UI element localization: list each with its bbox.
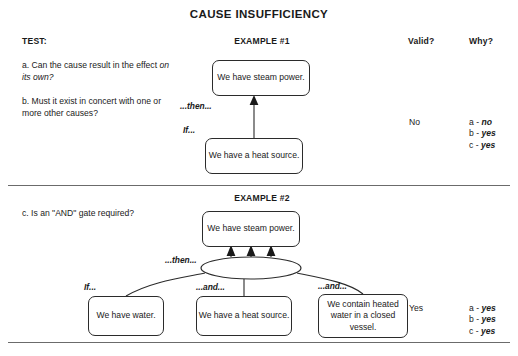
answer-row: b - yes xyxy=(469,128,496,139)
test-question-a: a. Can the cause result in the effect on… xyxy=(22,60,172,83)
node-example2-cause-2: We have a heat source. xyxy=(196,296,292,336)
node-example2-effect: We have steam power. xyxy=(202,211,300,247)
answer-row: c - yes xyxy=(469,140,496,151)
node-example1-effect: We have steam power. xyxy=(212,60,310,96)
test-question-b: b. Must it exist in concert with one or … xyxy=(22,96,172,119)
test-question-c: c. Is an "AND" gate required? xyxy=(22,208,172,220)
connector-label-if-example1: If... xyxy=(183,125,195,135)
test-question-a-text: a. Can the cause result in the effect xyxy=(22,60,159,70)
column-header-test: TEST: xyxy=(22,36,47,46)
column-header-example1: EXAMPLE #1 xyxy=(213,36,311,46)
column-header-example2: EXAMPLE #2 xyxy=(213,193,311,203)
answer-row: c - yes xyxy=(469,326,496,337)
answer-row: b - yes xyxy=(469,314,496,325)
answers-example1: a - no b - yes c - yes xyxy=(469,117,496,151)
connector-label-if-example2: If... xyxy=(84,282,96,292)
section-divider-middle xyxy=(8,185,510,186)
page-title: CAUSE INSUFFICIENCY xyxy=(0,8,518,20)
verdict-example1: No xyxy=(409,117,420,127)
answer-row: a - no xyxy=(469,117,496,128)
arrowhead-example1 xyxy=(250,95,259,105)
column-header-valid: Valid? xyxy=(408,36,435,46)
node-example2-cause-1: We have water. xyxy=(88,296,164,336)
verdict-example2: Yes xyxy=(409,303,423,313)
diagram-page: CAUSE INSUFFICIENCY TEST: EXAMPLE #1 Val… xyxy=(0,0,518,356)
connector-label-then-example1: ...then... xyxy=(180,101,212,111)
connector-label-and-1: ...and... xyxy=(196,282,225,292)
column-header-why: Why? xyxy=(469,36,493,46)
and-gate-ellipse xyxy=(201,257,301,279)
node-example1-cause: We have a heat source. xyxy=(205,138,303,174)
answer-row: a - yes xyxy=(469,303,496,314)
connector-label-then-example2: ...then... xyxy=(165,255,197,265)
connector-label-and-2: ...and... xyxy=(318,281,347,291)
answers-example2: a - yes b - yes c - yes xyxy=(469,303,496,337)
node-example2-cause-3: We contain heated water in a closed vess… xyxy=(318,294,408,338)
section-divider-bottom xyxy=(8,342,510,343)
